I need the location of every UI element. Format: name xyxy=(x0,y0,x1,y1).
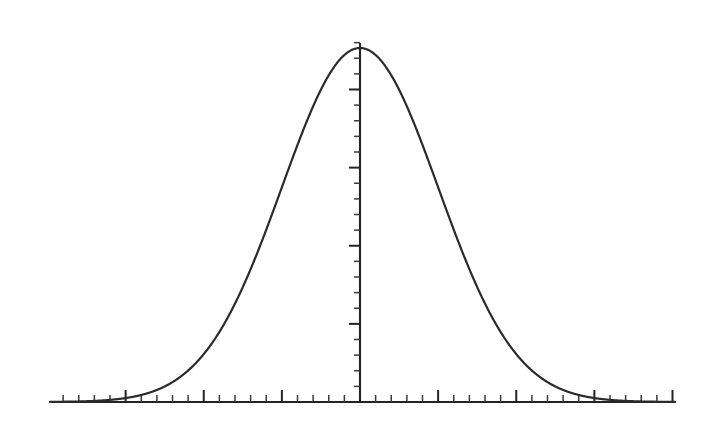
chart-figure: Symmetric bell-shaped normal (Gaussian) … xyxy=(0,0,715,447)
plot-background xyxy=(0,0,715,447)
normal-distribution-plot xyxy=(0,0,715,447)
